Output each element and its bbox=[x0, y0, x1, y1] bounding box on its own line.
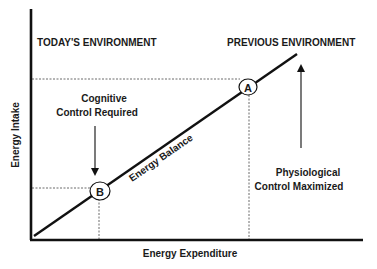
energy-balance-label: Energy Balance bbox=[127, 132, 195, 184]
point-a-marker: A bbox=[239, 79, 257, 95]
y-axis-label: Energy Intake bbox=[10, 102, 21, 168]
previous-environment-title: PREVIOUS ENVIRONMENT bbox=[227, 37, 355, 48]
energy-balance-diagram: A B TODAY'S ENVIRONMENT PREVIOUS ENVIRON… bbox=[0, 0, 377, 269]
point-b-marker: B bbox=[90, 182, 110, 200]
point-a-label: A bbox=[244, 82, 252, 94]
point-b-label: B bbox=[96, 186, 104, 198]
cognitive-label-line1: Cognitive bbox=[81, 93, 127, 104]
energy-balance-line bbox=[34, 54, 297, 236]
physiological-label-line2: Control Maximized bbox=[255, 181, 344, 192]
physiological-label-line1: Physiological bbox=[276, 167, 341, 178]
todays-environment-title: TODAY'S ENVIRONMENT bbox=[37, 37, 157, 48]
x-axis-label: Energy Expenditure bbox=[143, 248, 238, 259]
cognitive-label-line2: Control Required bbox=[56, 107, 138, 118]
